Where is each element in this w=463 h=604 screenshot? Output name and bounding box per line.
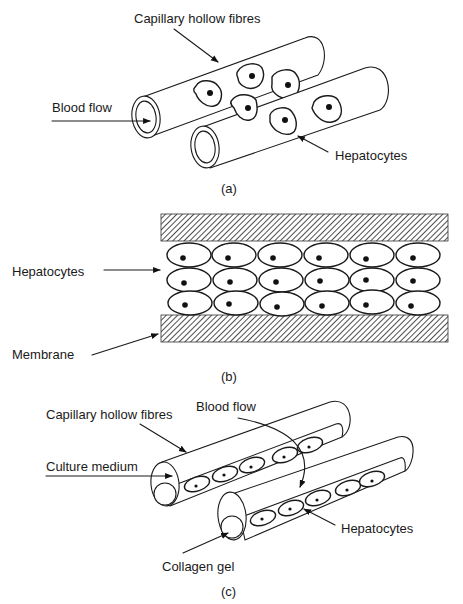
label-b-hepatocytes: Hepatocytes <box>12 264 85 279</box>
arrow-c-fibres <box>140 424 186 452</box>
label-b-membrane: Membrane <box>12 347 74 362</box>
label-c-culture-medium: Culture medium <box>46 459 138 474</box>
panel-a: Capillary hollow fibres Blood flow Hepat… <box>52 11 408 196</box>
membrane-top <box>161 214 448 241</box>
bioreactor-figure: Capillary hollow fibres Blood flow Hepat… <box>0 0 463 604</box>
hepatocyte-layer <box>167 243 440 316</box>
panel-c: Capillary hollow fibres Blood flow Cultu… <box>46 399 414 599</box>
arrow-c-collagen-gel <box>183 533 228 553</box>
panel-b: Hepatocytes Membrane (b) <box>12 214 448 384</box>
caption-b: (b) <box>221 369 237 384</box>
label-a-hepatocytes: Hepatocytes <box>335 148 408 163</box>
label-c-hepatocytes: Hepatocytes <box>341 521 414 536</box>
figure-canvas: Capillary hollow fibres Blood flow Hepat… <box>0 0 463 604</box>
label-c-blood-flow: Blood flow <box>196 399 257 414</box>
arrow-b-membrane <box>92 334 158 355</box>
label-c-collagen-gel: Collagen gel <box>162 559 234 574</box>
label-c-capillary-fibres: Capillary hollow fibres <box>46 407 173 422</box>
label-a-blood-flow: Blood flow <box>52 100 113 115</box>
arrow-a-fibres <box>174 29 218 62</box>
membrane-bottom <box>161 315 448 342</box>
arrow-a-hepatocytes <box>298 136 328 152</box>
label-a-capillary-fibres: Capillary hollow fibres <box>134 11 261 26</box>
arrow-c-hepatocytes <box>304 509 335 525</box>
caption-a: (a) <box>221 181 237 196</box>
caption-c: (c) <box>221 584 236 599</box>
